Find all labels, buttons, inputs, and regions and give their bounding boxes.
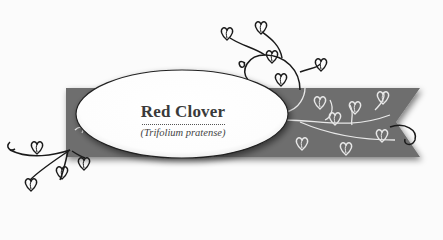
plant-label: Red Clover (Trifolium pratense)	[80, 72, 286, 156]
scientific-name: (Trifolium pratense)	[80, 127, 286, 138]
dotted-divider	[142, 124, 225, 125]
plant-name: Red Clover	[80, 102, 286, 122]
